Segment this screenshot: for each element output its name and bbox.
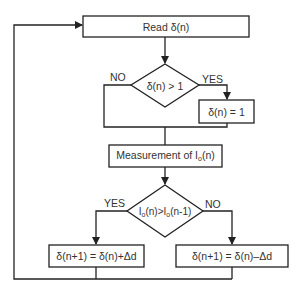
decision2-yes-label: YES — [104, 198, 125, 209]
measure-label: Measurement of Io(n) — [116, 150, 214, 162]
flowchart-lines — [0, 0, 296, 292]
decision1-no-label: NO — [110, 72, 126, 83]
clamp-label: δ(n) = 1 — [208, 106, 244, 117]
flowchart: Read δ(n) δ(n) > 1 NO YES δ(n) = 1 Measu… — [0, 0, 296, 292]
decision1-label: δ(n) > 1 — [147, 80, 183, 91]
decision2-label: Io(n)>Io(n-1) — [139, 207, 192, 218]
decision1-yes-label: YES — [202, 74, 223, 85]
read-label: Read δ(n) — [143, 21, 190, 32]
decrease-label: δ(n+1) = δ(n)–Δd — [192, 251, 272, 262]
decision2-no-label: NO — [205, 199, 221, 210]
increase-label: δ(n+1) = δ(n)+Δd — [56, 251, 136, 262]
